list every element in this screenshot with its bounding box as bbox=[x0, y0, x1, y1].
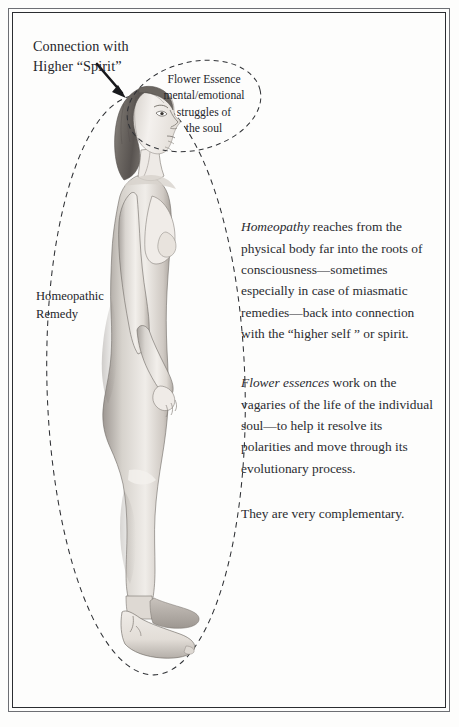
paragraph-homeopathy: Homeopathy reaches from the physical bod… bbox=[241, 216, 433, 344]
paragraph-homeopathy-rest: reaches from the physical body far into … bbox=[241, 219, 422, 340]
paragraph-homeopathy-lead: Homeopathy bbox=[241, 219, 309, 234]
callout-homeopathic-remedy: Homeopathic Remedy bbox=[36, 287, 104, 323]
paragraph-flower-essences-rest: work on the vagaries of the life of the … bbox=[241, 375, 433, 475]
figure-page: Connection with Higher “Spirit” Flower E… bbox=[0, 0, 459, 727]
paragraph-complementary: They are very complementary. bbox=[241, 503, 433, 524]
paragraph-complementary-text: They are very complementary. bbox=[241, 506, 404, 521]
callout-flower-essence: Flower Essence mental/emotional struggle… bbox=[152, 72, 256, 138]
paragraph-flower-essences-lead: Flower essences bbox=[241, 375, 329, 390]
callout-connection-with-higher-spirit: Connection with Higher “Spirit” bbox=[33, 36, 129, 76]
paragraph-flower-essences: Flower essences work on the vagaries of … bbox=[241, 372, 433, 478]
